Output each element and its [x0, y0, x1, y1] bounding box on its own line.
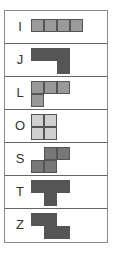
block-cell	[31, 19, 44, 32]
block-cell	[44, 160, 57, 173]
block-cell	[44, 193, 57, 206]
piece-label: O	[14, 118, 26, 133]
block-cell	[44, 213, 57, 226]
block-cell	[44, 127, 57, 140]
block-cell	[57, 226, 70, 239]
piece-label: T	[14, 184, 26, 199]
block-cell	[31, 81, 44, 94]
block-cell	[31, 94, 44, 107]
piece-row-t: T	[5, 176, 107, 209]
block-cell	[44, 81, 57, 94]
piece-row-s: S	[5, 143, 107, 176]
block-cell	[44, 180, 57, 193]
piece-row-l: L	[5, 77, 107, 110]
block-cell	[70, 19, 83, 32]
block-cell	[31, 48, 44, 61]
piece-label: L	[14, 85, 26, 100]
piece-label: S	[14, 151, 26, 166]
block-cell	[44, 114, 57, 127]
piece-label: Z	[14, 217, 26, 232]
block-cell	[44, 226, 57, 239]
block-cell	[44, 147, 57, 160]
piece-row-z: Z	[5, 209, 107, 242]
block-cell	[31, 180, 44, 193]
block-cell	[44, 48, 57, 61]
block-cell	[57, 19, 70, 32]
block-cell	[57, 180, 70, 193]
piece-label: I	[14, 19, 26, 34]
block-cell	[57, 48, 70, 61]
block-cell	[31, 114, 44, 127]
piece-label: J	[14, 52, 26, 67]
block-cell	[31, 160, 44, 173]
block-cell	[57, 61, 70, 74]
piece-row-o: O	[5, 110, 107, 143]
block-cell	[31, 213, 44, 226]
block-cell	[57, 81, 70, 94]
block-cell	[44, 19, 57, 32]
piece-row-j: J	[5, 44, 107, 77]
piece-row-i: I	[5, 11, 107, 44]
block-cell	[31, 127, 44, 140]
tetromino-table: I J L O S T Z	[4, 10, 108, 243]
block-cell	[57, 147, 70, 160]
